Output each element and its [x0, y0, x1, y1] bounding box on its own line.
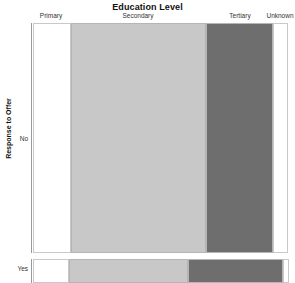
tile-yes-secondary[interactable] — [69, 259, 188, 283]
y-tick-label-no: No — [12, 135, 28, 142]
chart-title: Education Level — [0, 2, 295, 12]
tile-yes-primary[interactable] — [33, 259, 69, 283]
y-axis-spine-lower — [31, 259, 32, 283]
x-tick-label-secondary: Secondary — [122, 12, 153, 19]
mosaic-plot: Education Level Primary Secondary Tertia… — [0, 0, 295, 283]
y-axis-title: Response to Offer — [5, 69, 12, 189]
tile-yes-tertiary[interactable] — [188, 259, 283, 283]
x-tick-label-unknown: Unknown — [266, 12, 293, 19]
x-tick-label-tertiary: Tertiary — [229, 12, 250, 19]
y-tick-label-yes: Yes — [12, 265, 28, 272]
x-tick-label-primary: Primary — [40, 12, 62, 19]
tile-no-tertiary[interactable] — [206, 23, 273, 253]
tile-no-unknown[interactable] — [273, 23, 288, 253]
y-axis-spine — [31, 23, 32, 253]
tile-yes-unknown[interactable] — [283, 259, 289, 283]
tile-no-primary[interactable] — [33, 23, 71, 253]
tile-no-secondary[interactable] — [71, 23, 206, 253]
x-axis-tick-labels: Primary Secondary Tertiary Unknown — [0, 12, 295, 22]
